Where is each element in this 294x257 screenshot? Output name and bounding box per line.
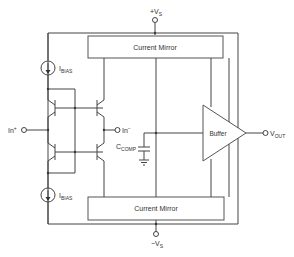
noninverting-input: In+ (8, 125, 48, 134)
top-bias-current-source: IBIAS (41, 33, 73, 89)
top-current-mirror: Current Mirror (88, 36, 223, 58)
input-stage-transistors (47, 58, 105, 197)
bottom-current-mirror: Current Mirror (88, 197, 224, 220)
negative-supply-label: −VS (151, 240, 164, 249)
output-buffer: Buffer VOUT (203, 58, 285, 197)
top-current-mirror-label: Current Mirror (133, 44, 177, 51)
buffer-label: Buffer (209, 130, 227, 137)
inverting-input-label: In− (122, 125, 131, 134)
arrow-down-icon (46, 70, 51, 74)
op-amp-schematic: +VS Current Mirror Current Mirror −VS IB… (0, 0, 294, 257)
bottom-bias-label: IBIAS (59, 192, 73, 201)
bottom-current-mirror-label: Current Mirror (134, 205, 178, 212)
positive-supply-label: +VS (150, 8, 163, 17)
noninverting-input-label: In+ (8, 125, 17, 134)
positive-supply-terminal: +VS (150, 8, 163, 35)
compensation-cap-label: CCOMP (116, 143, 137, 152)
arrow-down-icon (46, 197, 51, 201)
inverting-input: In− (104, 125, 131, 134)
bottom-bias-current-source: IBIAS (41, 173, 73, 224)
top-bias-label: IBIAS (59, 65, 73, 74)
output-label: VOUT (270, 130, 285, 139)
